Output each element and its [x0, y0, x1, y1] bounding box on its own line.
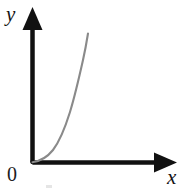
origin-label: 0 [7, 164, 17, 184]
y-axis-label: y [6, 4, 15, 25]
x-axis-label: x [167, 167, 176, 188]
axes-and-curve-svg [0, 0, 189, 193]
coordinate-axes-figure: y x 0 [0, 0, 189, 193]
scan-artifact-speck [46, 185, 52, 188]
